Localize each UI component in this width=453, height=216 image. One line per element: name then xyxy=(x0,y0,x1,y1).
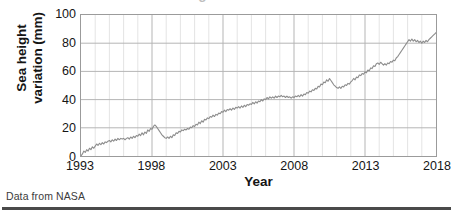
source-note: Data from NASA xyxy=(6,190,85,202)
y-axis-title-line-1: Sea height xyxy=(14,0,30,138)
y-tick-label-40: 40 xyxy=(50,94,76,106)
sea-level-data-line xyxy=(81,33,436,156)
y-tick-label-80: 80 xyxy=(50,37,76,49)
sea-level-chart-figure: Global average sea level rise 1993–2018 … xyxy=(0,0,453,216)
major-horizontal-gridlines xyxy=(81,43,436,128)
y-axis-title-line-2: variation (mm) xyxy=(30,0,46,138)
major-vertical-gridlines xyxy=(152,15,365,156)
x-tick-label-2003: 2003 xyxy=(196,159,250,173)
x-axis-tick-labels: 199319982003200820132018 xyxy=(0,159,453,175)
x-tick-label-1993: 1993 xyxy=(53,159,107,173)
x-tick-label-1998: 1998 xyxy=(124,159,178,173)
x-axis-title: Year xyxy=(80,174,437,189)
y-axis-tick-labels: 020406080100 xyxy=(48,0,76,216)
y-tick-label-100: 100 xyxy=(50,8,76,20)
x-tick-label-2013: 2013 xyxy=(339,159,393,173)
chart-title: Global average sea level rise 1993–2018 xyxy=(76,0,416,3)
x-tick-label-2018: 2018 xyxy=(410,159,453,173)
y-tick-label-20: 20 xyxy=(50,122,76,134)
bottom-divider-rule xyxy=(2,207,451,210)
plot-area xyxy=(80,14,437,157)
minor-vertical-gridlines xyxy=(95,15,422,156)
plot-svg xyxy=(81,15,436,156)
x-tick-label-2008: 2008 xyxy=(267,159,321,173)
y-tick-label-60: 60 xyxy=(50,65,76,77)
